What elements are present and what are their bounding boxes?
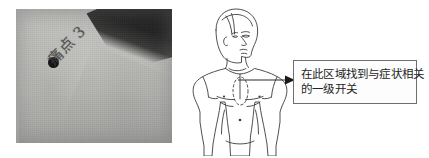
callout-text-line-1: 在此区域找到与症状相关	[301, 67, 411, 82]
point-navel	[239, 119, 242, 122]
chest-photograph: 痛点 3	[16, 9, 172, 143]
figure-root: 痛点 3	[0, 0, 429, 158]
waist-left	[222, 110, 225, 134]
point-left-chest	[223, 95, 225, 97]
callout-arrow	[238, 72, 296, 84]
waist-right	[256, 110, 259, 134]
photo-vignette	[16, 9, 172, 143]
arrow-svg	[238, 74, 296, 86]
callout-text: 在此区域找到与症状相关 的一级开关	[301, 67, 411, 97]
collarbone-hollow	[229, 69, 246, 71]
callout-text-line-2: 的一级开关	[301, 82, 411, 97]
neck-right	[246, 58, 249, 68]
instruction-callout: 在此区域找到与症状相关 的一级开关	[293, 60, 417, 104]
point-right-chest	[258, 95, 260, 97]
